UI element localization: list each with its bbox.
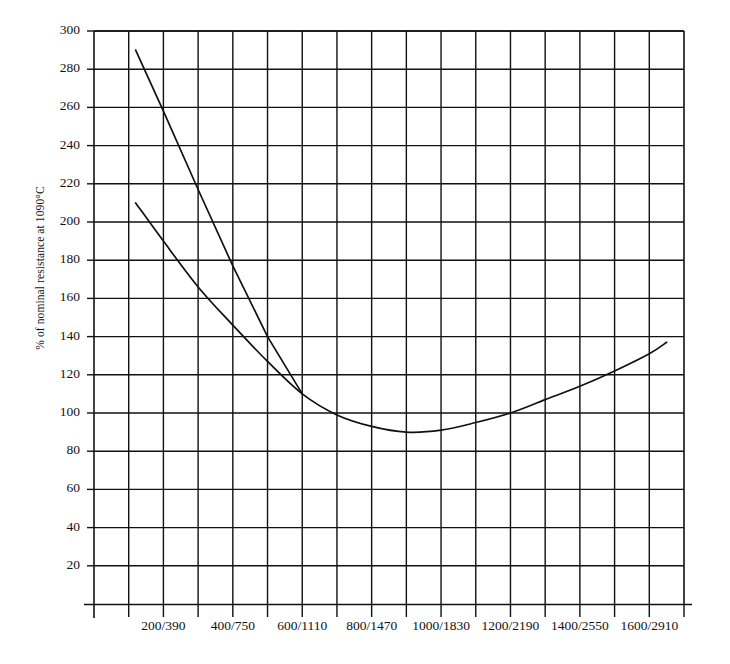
series-shallow-characteristic (136, 203, 667, 432)
axis-tick-marks (87, 31, 684, 617)
resistance-vs-temperature-chart: % of nominal resistance at 1090°C 204060… (0, 0, 730, 664)
plot-area (0, 0, 730, 664)
horizontal-gridlines (94, 31, 684, 566)
vertical-gridlines (94, 31, 684, 604)
